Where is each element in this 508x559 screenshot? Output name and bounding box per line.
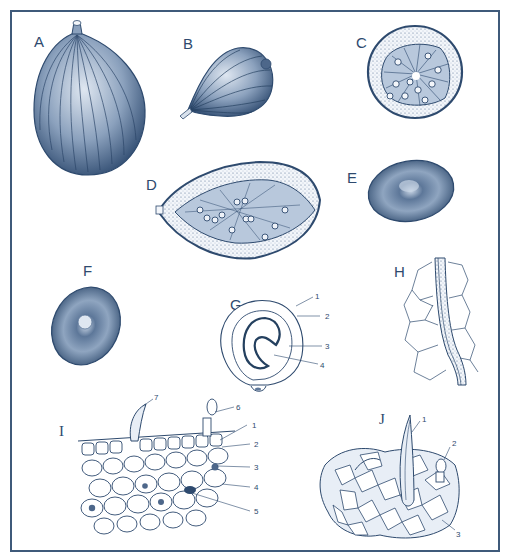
callout-i-6: 6 [236,403,241,412]
callout-g-2: 2 [325,312,330,321]
seed-f-drawing [39,276,133,376]
plate-drawings: 1 2 3 4 [0,0,508,559]
fruit-b-drawing [180,48,273,119]
callout-j-1: 1 [422,415,427,424]
botanical-plate: A B C D E F G H I J [0,0,508,559]
seed-e-drawing [363,154,458,228]
callout-g-3: 3 [325,342,330,351]
tissue-section-i-drawing: 1 2 3 4 5 6 7 [78,393,259,534]
vascular-strand-h-drawing [404,258,478,385]
fruit-longitudinal-section-d-drawing [156,162,320,258]
callout-i-2: 2 [254,440,259,449]
callout-i-4: 4 [254,483,259,492]
fruit-a-drawing [34,21,145,176]
callout-i-1: 1 [252,421,257,430]
glandular-hair [203,399,217,436]
callout-j-2: 2 [452,439,457,448]
epidermis-surface-j-drawing: 1 2 3 [320,415,461,539]
fruit-cross-section-c-drawing [368,26,462,118]
callout-g-4: 4 [320,361,325,370]
callout-i-3: 3 [254,463,259,472]
callout-i-7: 7 [154,393,159,402]
callout-i-5: 5 [254,507,259,516]
callout-j-3: 3 [456,530,461,539]
seed-section-g-drawing: 1 2 3 4 [221,292,330,391]
callout-g-1: 1 [315,292,320,301]
